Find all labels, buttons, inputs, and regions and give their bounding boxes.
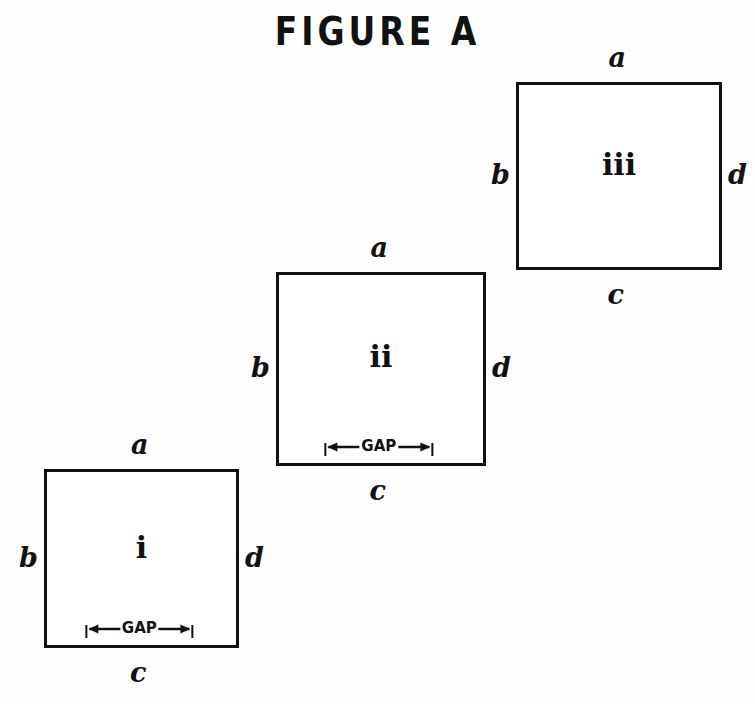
panel-i-edge-label-a: a [131,431,149,458]
gap-right-arrow-icon [397,440,431,454]
gap-right-tick-icon [192,625,194,638]
gap-right-tick-icon [431,443,433,456]
gap-left-arrow-icon [87,622,121,636]
panel-i-numeral: i [136,533,147,563]
panel-i-edge-label-b: b [19,544,38,571]
panel-ii-edge-label-d: d [492,354,511,381]
panel-ii-gap-marker: GAP [324,436,433,458]
panel-ii-gap-label: GAP [360,439,397,454]
panel-iii: a b c d iii [516,82,722,270]
panel-i-gap-label: GAP [121,621,158,636]
panel-iii-edge-label-b: b [491,161,510,188]
figure-canvas: FIGURE A a b c d iii a b c d ii GAP [0,0,755,704]
panel-iii-edge-label-d: d [728,161,747,188]
panel-i: a b c d i GAP [44,469,239,648]
gap-left-arrow-icon [326,440,360,454]
panel-i-edge-label-d: d [245,544,264,571]
panel-iii-edge-label-c: c [607,281,623,308]
panel-i-edge-label-c: c [130,659,146,686]
panel-iii-numeral: iii [602,150,636,180]
figure-title: FIGURE A [0,8,755,54]
panel-ii-edge-label-c: c [369,477,385,504]
panel-ii-edge-label-b: b [251,354,270,381]
panel-ii: a b c d ii GAP [276,272,486,466]
panel-i-gap-marker: GAP [85,618,194,640]
panel-ii-numeral: ii [370,342,393,372]
panel-iii-edge-label-a: a [609,44,627,71]
gap-right-arrow-icon [158,622,192,636]
panel-ii-edge-label-a: a [371,234,389,261]
